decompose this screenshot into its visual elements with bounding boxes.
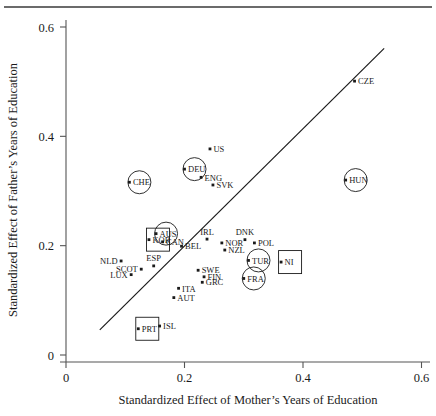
data-point[interactable]: HUN bbox=[344, 175, 367, 185]
point-label-che: CHE bbox=[133, 177, 150, 187]
point-marker-kor bbox=[148, 238, 151, 241]
point-marker-svk bbox=[212, 184, 215, 187]
y-tick-label-0.6: 0.6 bbox=[38, 21, 54, 35]
x-axis-ticks: 00.20.40.6 bbox=[63, 362, 429, 385]
point-marker-aut bbox=[172, 296, 175, 299]
point-label-grc: GRC bbox=[206, 277, 224, 287]
y-tick-label-0: 0 bbox=[48, 349, 54, 363]
point-label-us: US bbox=[213, 144, 224, 154]
data-point[interactable]: IRL bbox=[200, 227, 214, 241]
point-marker-eng bbox=[200, 176, 203, 179]
point-marker-scot bbox=[140, 268, 143, 271]
data-point[interactable]: ESP bbox=[146, 253, 161, 267]
x-tick-label-0.6: 0.6 bbox=[414, 371, 430, 385]
point-marker-deu bbox=[183, 168, 186, 171]
point-label-esp: ESP bbox=[146, 253, 161, 263]
data-point[interactable]: POL bbox=[253, 238, 274, 248]
scatter-plot-figure: 00.20.40.6 00.20.40.6 CZEUSDEUHUNCHEENGS… bbox=[0, 0, 436, 416]
data-point[interactable]: CZE bbox=[353, 76, 374, 86]
point-label-dnk: DNK bbox=[236, 227, 255, 237]
point-label-svk: SVK bbox=[216, 180, 234, 190]
point-label-deu: DEU bbox=[188, 164, 205, 174]
y-axis-ticks: 00.20.40.6 bbox=[38, 21, 66, 363]
point-label-prt: PRT bbox=[142, 324, 158, 334]
point-label-isl: ISL bbox=[163, 321, 176, 331]
y-tick-label-0.4: 0.4 bbox=[38, 130, 54, 144]
point-marker-nzl bbox=[223, 249, 226, 252]
point-marker-irl bbox=[206, 238, 209, 241]
y-axis-title: Standardized Effect of Father’s Years of… bbox=[6, 62, 20, 317]
point-marker-isl bbox=[158, 325, 161, 328]
point-marker-swe bbox=[197, 269, 200, 272]
data-point[interactable]: US bbox=[209, 144, 225, 154]
data-point[interactable]: DEU bbox=[183, 164, 205, 174]
point-label-nzl: NZL bbox=[228, 245, 245, 255]
point-marker-nor bbox=[220, 242, 223, 245]
point-label-tur: TUR bbox=[252, 256, 269, 266]
point-label-pol: POL bbox=[258, 238, 274, 248]
point-marker-prt bbox=[137, 327, 140, 330]
x-axis-title: Standardized Effect of Mother’s Years of… bbox=[119, 393, 379, 407]
point-marker-ni bbox=[280, 261, 283, 264]
regression-reference-line bbox=[100, 48, 384, 330]
point-marker-che bbox=[128, 181, 131, 184]
point-marker-grc bbox=[201, 281, 204, 284]
data-points-layer: CZEUSDEUHUNCHEENGSVKAUSKORCANBELIRLNORNZ… bbox=[100, 76, 374, 340]
point-label-irl: IRL bbox=[200, 227, 214, 237]
point-marker-cze bbox=[353, 80, 356, 83]
y-tick-label-0.2: 0.2 bbox=[38, 239, 54, 253]
point-label-ni: NI bbox=[285, 257, 294, 267]
plot-canvas: 00.20.40.6 00.20.40.6 CZEUSDEUHUNCHEENGS… bbox=[0, 0, 436, 416]
point-marker-lux bbox=[130, 273, 133, 276]
data-point[interactable]: NI bbox=[280, 257, 294, 267]
x-tick-label-0: 0 bbox=[63, 371, 69, 385]
axis-lines bbox=[60, 20, 430, 362]
point-marker-nld bbox=[120, 260, 123, 263]
point-label-hun: HUN bbox=[349, 175, 367, 185]
point-marker-tur bbox=[247, 259, 250, 262]
data-point[interactable]: FRA bbox=[242, 274, 264, 284]
point-label-cze: CZE bbox=[358, 76, 374, 86]
point-marker-can bbox=[161, 240, 164, 243]
point-marker-dnk bbox=[244, 238, 247, 241]
point-marker-us bbox=[209, 148, 212, 151]
data-point[interactable]: GRC bbox=[201, 277, 224, 287]
data-point[interactable]: PRT bbox=[137, 324, 158, 334]
point-label-aut: AUT bbox=[177, 293, 195, 303]
data-point[interactable]: ISL bbox=[158, 321, 176, 331]
point-marker-bel bbox=[180, 245, 183, 248]
data-point[interactable]: AUT bbox=[172, 293, 195, 303]
point-marker-hun bbox=[344, 179, 347, 182]
data-point[interactable]: TUR bbox=[247, 256, 269, 266]
point-label-lux: LUX bbox=[110, 270, 127, 280]
point-label-fra: FRA bbox=[247, 274, 264, 284]
point-label-bel: BEL bbox=[185, 241, 201, 251]
point-marker-ita bbox=[177, 287, 180, 290]
point-marker-fra bbox=[242, 277, 245, 280]
point-label-nld: NLD bbox=[100, 256, 117, 266]
x-tick-label-0.4: 0.4 bbox=[295, 371, 311, 385]
x-tick-label-0.2: 0.2 bbox=[177, 371, 193, 385]
point-marker-esp bbox=[152, 264, 155, 267]
data-point[interactable]: CHE bbox=[128, 177, 150, 187]
point-marker-pol bbox=[253, 242, 256, 245]
